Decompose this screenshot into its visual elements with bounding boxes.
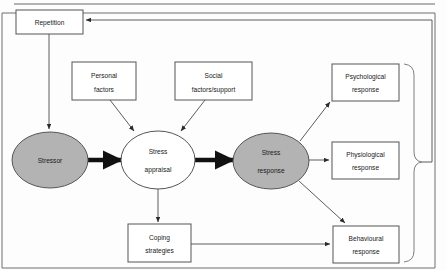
box-social-factors-label-line2: factors/support — [192, 86, 236, 94]
box-personal-factors-label-line1: Personal — [91, 72, 118, 79]
box-repetition-label: Repetition — [35, 19, 65, 27]
ellipse-stress-response-label-line2: response — [257, 167, 284, 175]
box-physiological-response[interactable] — [332, 142, 399, 179]
diagram-canvas: Repetition Personal factors Social facto… — [0, 0, 447, 270]
ellipse-stress-response-label-line1: Stress — [262, 149, 281, 156]
box-physiological-response-label-line1: Physiological — [346, 151, 385, 159]
box-social-factors-label-line1: Social — [205, 72, 223, 79]
stress-model-svg: Repetition Personal factors Social facto… — [0, 0, 447, 270]
ellipse-stress-appraisal-label-line2: appraisal — [145, 166, 172, 174]
box-physiological-response-label-line2: response — [352, 164, 379, 172]
connector-response-to-psychological — [300, 102, 330, 141]
box-personal-factors-label-line2: factors — [94, 86, 114, 93]
box-psychological-response-label-line1: Psychological — [345, 73, 386, 81]
ellipse-stress-response[interactable] — [233, 133, 309, 189]
box-coping-strategies-label-line2: strategies — [145, 247, 174, 255]
box-behavioural-response-label-line1: Behavioural — [349, 235, 384, 242]
ellipse-stressor-label: Stressor — [38, 157, 63, 164]
ellipse-stress-appraisal[interactable] — [121, 131, 195, 189]
box-behavioural-response[interactable] — [333, 226, 399, 263]
connector-response-to-behavioural — [299, 181, 345, 223]
responses-grouping-brace — [404, 64, 422, 262]
box-personal-factors[interactable] — [72, 62, 136, 100]
box-psychological-response-label-line2: response — [352, 86, 379, 94]
box-behavioural-response-label-line2: response — [352, 248, 379, 256]
box-coping-strategies[interactable] — [128, 224, 191, 262]
ellipse-stress-appraisal-label-line1: Stress — [149, 148, 168, 155]
connector-personal-to-appraisal — [110, 100, 134, 131]
box-psychological-response[interactable] — [332, 64, 399, 101]
connector-social-to-appraisal — [181, 100, 205, 131]
box-social-factors[interactable] — [175, 62, 252, 100]
page-edge-artifact — [14, 3, 435, 5]
box-coping-strategies-label-line1: Coping — [149, 234, 170, 242]
